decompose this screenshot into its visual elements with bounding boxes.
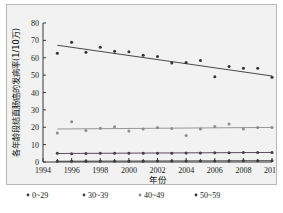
data-point bbox=[113, 152, 116, 155]
data-point bbox=[56, 152, 59, 155]
trend-line bbox=[57, 127, 272, 129]
data-point bbox=[56, 160, 59, 163]
plot-frame: 0102030405060708019941996199820002002200… bbox=[6, 4, 277, 185]
data-point bbox=[170, 61, 173, 64]
data-point bbox=[170, 159, 173, 162]
y-tick-label: 50 bbox=[31, 71, 39, 80]
data-point bbox=[242, 67, 245, 70]
data-point bbox=[185, 159, 188, 162]
data-point bbox=[271, 126, 274, 129]
data-point bbox=[256, 151, 259, 154]
data-point bbox=[99, 46, 102, 49]
data-point bbox=[213, 151, 216, 154]
data-point bbox=[271, 159, 274, 162]
x-tick-label: 2000 bbox=[121, 166, 137, 175]
data-point bbox=[228, 151, 231, 154]
x-tick-label: 1998 bbox=[92, 166, 108, 175]
x-tick-label: 1996 bbox=[64, 166, 80, 175]
data-point bbox=[70, 41, 73, 44]
data-point bbox=[170, 127, 173, 130]
legend-label-30-39: 30~39 bbox=[88, 191, 108, 200]
x-tick-label: 2010 bbox=[264, 166, 276, 175]
y-axis-label: 各年龄段结直肠癌的发病率(1/10万) bbox=[11, 28, 21, 157]
data-point bbox=[113, 50, 116, 53]
data-point bbox=[185, 61, 188, 64]
data-point bbox=[228, 65, 231, 68]
data-point bbox=[185, 134, 188, 137]
series-30-39 bbox=[56, 151, 274, 155]
data-point bbox=[228, 123, 231, 126]
data-point bbox=[228, 159, 231, 162]
data-point bbox=[256, 126, 259, 129]
chart-figure: 0102030405060708019941996199820002002200… bbox=[0, 0, 283, 213]
data-point bbox=[84, 129, 87, 132]
legend-marker-40-49 bbox=[139, 194, 142, 197]
data-point bbox=[99, 127, 102, 130]
data-point bbox=[271, 151, 274, 154]
chart-axes bbox=[43, 23, 272, 162]
data-point bbox=[213, 75, 216, 78]
data-point bbox=[213, 159, 216, 162]
data-point bbox=[70, 120, 73, 123]
data-point bbox=[99, 152, 102, 155]
data-point bbox=[213, 125, 216, 128]
trend-line bbox=[57, 45, 272, 76]
legend-label-50-59: 50~59 bbox=[200, 191, 220, 200]
data-point bbox=[242, 127, 245, 130]
data-point bbox=[185, 151, 188, 154]
legend-label-40-49: 40~49 bbox=[144, 191, 164, 200]
data-point bbox=[127, 130, 130, 133]
data-point bbox=[142, 127, 145, 130]
y-tick-label: 60 bbox=[31, 54, 39, 63]
data-point bbox=[84, 152, 87, 155]
x-tick-label: 2002 bbox=[150, 166, 166, 175]
data-point bbox=[127, 160, 130, 163]
data-point bbox=[56, 52, 59, 55]
legend-marker-30-39 bbox=[83, 194, 86, 197]
x-tick-label: 2006 bbox=[207, 166, 223, 175]
data-point bbox=[142, 54, 145, 57]
data-point bbox=[156, 152, 159, 155]
data-point bbox=[127, 50, 130, 53]
data-point bbox=[99, 160, 102, 163]
data-point bbox=[199, 59, 202, 62]
data-point bbox=[70, 152, 73, 155]
data-point bbox=[242, 151, 245, 154]
data-point bbox=[56, 131, 59, 134]
data-point bbox=[156, 126, 159, 129]
x-tick-label: 2004 bbox=[178, 166, 194, 175]
x-tick-label: 2008 bbox=[235, 166, 251, 175]
chart-canvas: 0102030405060708019941996199820002002200… bbox=[7, 5, 276, 184]
data-point bbox=[84, 51, 87, 54]
y-tick-label: 20 bbox=[31, 123, 39, 132]
trend-line bbox=[57, 152, 272, 153]
x-axis-label: 年份 bbox=[149, 175, 167, 184]
trend-line bbox=[57, 161, 272, 162]
data-point bbox=[271, 76, 274, 79]
legend-canvas: 0~2930~3940~4950~59 bbox=[6, 186, 277, 211]
data-point bbox=[199, 159, 202, 162]
data-point bbox=[256, 159, 259, 162]
data-point bbox=[199, 151, 202, 154]
data-point bbox=[70, 160, 73, 163]
data-point bbox=[156, 55, 159, 58]
data-point bbox=[113, 125, 116, 128]
data-point bbox=[199, 127, 202, 130]
y-tick-label: 30 bbox=[31, 106, 39, 115]
y-tick-label: 80 bbox=[31, 19, 39, 28]
data-point bbox=[84, 160, 87, 163]
x-tick-label: 1994 bbox=[35, 166, 51, 175]
series-40-49 bbox=[56, 120, 274, 137]
y-tick-label: 10 bbox=[31, 141, 39, 150]
data-point bbox=[242, 159, 245, 162]
data-point bbox=[142, 152, 145, 155]
data-point bbox=[113, 160, 116, 163]
data-point bbox=[142, 160, 145, 163]
data-point bbox=[156, 159, 159, 162]
data-point bbox=[127, 152, 130, 155]
legend-marker-50-59 bbox=[195, 194, 198, 197]
chart-legend: 0~2930~3940~4950~59 bbox=[6, 186, 277, 211]
data-point bbox=[256, 67, 259, 70]
series-50-59 bbox=[56, 41, 274, 79]
legend-label-0-29: 0~29 bbox=[32, 191, 48, 200]
